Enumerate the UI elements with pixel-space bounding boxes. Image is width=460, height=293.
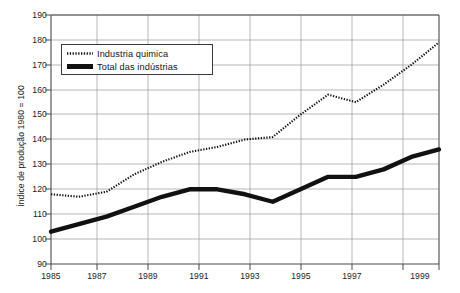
legend-label-total-das-industrias: Total das indústrias bbox=[97, 62, 178, 72]
x-tick-1991: 1991 bbox=[179, 272, 219, 281]
y-axis-ticks bbox=[45, 15, 51, 264]
x-tick-1997: 1997 bbox=[332, 272, 372, 281]
x-tick-1989: 1989 bbox=[128, 272, 168, 281]
x-tick-1985: 1985 bbox=[31, 272, 71, 281]
legend: Industria quimica Total das indústrias bbox=[61, 44, 213, 75]
x-tick-1999: 1999 bbox=[400, 272, 440, 281]
legend-sample-solid-icon bbox=[67, 62, 93, 71]
legend-item-total-das-industrias: Total das indústrias bbox=[67, 60, 178, 73]
x-tick-1995: 1995 bbox=[281, 272, 321, 281]
x-axis-ticks bbox=[51, 264, 439, 270]
legend-item-industria-quimica: Industria quimica bbox=[67, 47, 168, 60]
x-axis-tick-labels: 1985 1987 1989 1991 1993 1995 1997 1999 bbox=[0, 272, 460, 286]
chart-container: Índice de produção 1980 = 100 190 180 17… bbox=[0, 0, 460, 293]
legend-sample-dotted-icon bbox=[67, 49, 93, 58]
legend-label-industria-quimica: Industria quimica bbox=[97, 49, 168, 59]
x-tick-1987: 1987 bbox=[77, 272, 117, 281]
x-tick-1993: 1993 bbox=[230, 272, 270, 281]
